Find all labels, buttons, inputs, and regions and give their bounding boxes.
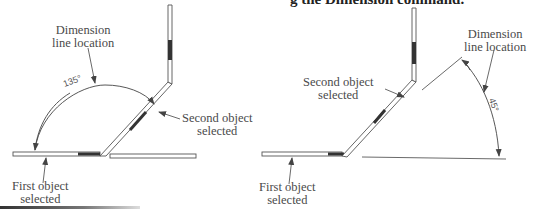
left-base-line [110, 154, 196, 158]
right-dimline-leader [484, 50, 494, 92]
label-line-2: line location [52, 37, 114, 50]
bottom-rule [0, 206, 140, 209]
left-dimline-leader [88, 48, 95, 83]
label-line-2: line location [464, 41, 526, 54]
right-baseline [362, 157, 506, 159]
right-first-object-label: First object selected [259, 181, 316, 207]
label-line-2: selected [182, 125, 252, 138]
label-line-2: selected [303, 89, 373, 102]
right-first-object [262, 152, 344, 156]
label-line-2: selected [12, 193, 69, 206]
right-second-object-label: Second object selected [303, 76, 373, 102]
figure-caption: g the Dimension command. [290, 0, 464, 8]
left-first-object-label: First object selected [12, 180, 69, 206]
right-extension-line [422, 57, 462, 90]
figure-canvas: g the Dimension command. [0, 0, 541, 211]
left-second-leader [159, 112, 180, 119]
right-dimension-line-label: Dimension line location [464, 28, 526, 54]
left-first-object [13, 152, 100, 156]
left-second-object-label: Second object selected [182, 112, 252, 138]
left-dimension-line-label: Dimension line location [52, 24, 114, 50]
label-line-2: selected [259, 194, 316, 207]
